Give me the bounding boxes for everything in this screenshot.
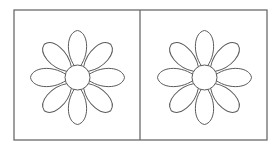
petal [68, 89, 86, 125]
panel-left [31, 31, 125, 125]
petal [68, 31, 86, 67]
petal [31, 68, 67, 86]
panel-right [158, 31, 252, 125]
petal [158, 68, 194, 86]
flower-icon [31, 31, 125, 125]
flower-center [192, 65, 217, 90]
flower-icon [158, 31, 252, 125]
figure [0, 0, 280, 147]
petal [216, 68, 252, 86]
flowers-figure [0, 0, 280, 147]
petal [195, 89, 213, 125]
petal [89, 68, 125, 86]
petal [195, 31, 213, 67]
flower-center [65, 65, 90, 90]
